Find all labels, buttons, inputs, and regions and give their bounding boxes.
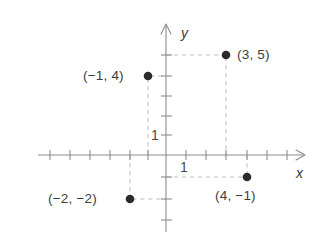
data-point-n1-4 — [144, 72, 153, 81]
data-point-n2-n2 — [126, 195, 135, 204]
point-label-3-5: (3, 5) — [237, 48, 270, 62]
data-point-4-n1 — [243, 173, 252, 182]
data-points — [126, 51, 252, 204]
point-label-4-n1: (4, −1) — [215, 189, 256, 203]
point-label-n1-4: (−1, 4) — [83, 69, 124, 83]
x-axis — [38, 150, 305, 160]
x-axis-label: x — [296, 166, 303, 180]
point-label-n2-n2: (−2, −2) — [48, 192, 97, 206]
y-axis-unit-label: 1 — [151, 128, 159, 142]
data-point-3-5 — [222, 51, 231, 60]
y-axis-label: y — [181, 26, 188, 40]
x-axis-unit-label: 1 — [180, 160, 188, 174]
